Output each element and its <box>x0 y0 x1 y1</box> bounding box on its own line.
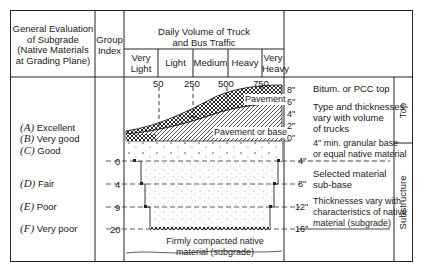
scale-16: 16" <box>295 224 308 235</box>
compacted-line: material (subgrade) <box>160 247 270 258</box>
traffic-col-light: Light <box>158 58 193 69</box>
evaluation-header: General Evaluation of Subgrade (Native M… <box>11 24 95 66</box>
label-pavement-or-base: Pavement or base <box>213 127 288 138</box>
grade-b: (B) Very good <box>20 133 79 144</box>
grade-letter: (B) <box>20 132 34 144</box>
desc-line: vary with volume <box>313 112 404 123</box>
desc-thickness-native: Thicknesses vary with characteristics of… <box>313 196 407 229</box>
marker-500: 500 <box>218 78 234 89</box>
col-label: Heavy <box>262 64 284 75</box>
grade-d: (D) Fair <box>20 178 54 189</box>
traffic-header: Daily Volume of Truck and Bus Traffic <box>124 27 284 48</box>
grade-label: Fair <box>38 178 54 189</box>
header-line: (Native Materials <box>11 45 95 56</box>
scale-6: 6" <box>287 97 295 108</box>
desc-type-thickness: Type and thicknesses vary with volume of… <box>313 101 404 134</box>
group-index-0: 0 <box>115 156 120 167</box>
grade-e: (E) Poor <box>20 201 57 212</box>
side-label-top: Top <box>394 77 412 143</box>
header-line: at Grading Plane) <box>11 56 95 67</box>
desc-line: sub-base <box>313 179 386 190</box>
desc-bitum: Bitum. or PCC top <box>313 83 390 94</box>
col-label: Very <box>262 53 284 64</box>
traffic-col-medium: Medium <box>193 58 228 69</box>
grade-label: Excellent <box>37 122 76 133</box>
marker-50: 50 <box>153 78 164 89</box>
scale-0: 0" <box>287 133 295 144</box>
desc-line: material (subgrade) <box>313 218 407 229</box>
header-line: and Bus Traffic <box>124 38 284 49</box>
desc-line: Thicknesses vary with <box>313 196 407 207</box>
desc-line: Type and thicknesses <box>313 101 404 112</box>
grade-letter: (D) <box>20 177 35 189</box>
scale-8b: 8" <box>298 179 306 190</box>
grade-letter: (C) <box>20 144 35 156</box>
desc-line: characteristics of native <box>313 207 407 218</box>
desc-line: 4" min. granular base <box>313 138 407 149</box>
grade-label: Very good <box>37 133 80 144</box>
grade-letter: (E) <box>20 200 34 212</box>
group-index-header: Group Index <box>95 35 124 56</box>
traffic-col-heavy: Heavy <box>228 58 262 69</box>
side-label-substructure: Substructure <box>394 143 412 262</box>
scale-2: 2" <box>287 121 295 132</box>
col-label: Heavy <box>228 58 262 69</box>
grade-label: Good <box>37 145 60 156</box>
label-compacted: Firmly compacted native material (subgra… <box>160 236 270 258</box>
grade-label: Very poor <box>37 223 78 234</box>
marker-250: 250 <box>184 78 200 89</box>
desc-line: Selected material <box>313 168 386 179</box>
marker-750: 750 <box>253 78 269 89</box>
label-pavement: Pavement <box>244 94 287 105</box>
traffic-col-very-light: Very Light <box>124 53 158 74</box>
desc-selected: Selected material sub-base <box>313 168 386 190</box>
grade-label: Poor <box>37 201 57 212</box>
scale-8: 8" <box>287 85 295 96</box>
scale-4: 4" <box>287 109 295 120</box>
col-label: Very <box>124 53 158 64</box>
desc-line: or equal native material <box>313 149 407 160</box>
desc-line: of trucks <box>313 123 404 134</box>
compacted-line: Firmly compacted native <box>160 236 270 247</box>
col-label: Light <box>158 58 193 69</box>
side-label-text: Substructure <box>398 176 409 230</box>
desc-granular: 4" min. granular base or equal native ma… <box>313 138 407 160</box>
grade-f: (F) Very poor <box>20 223 77 234</box>
col-label: Light <box>124 64 158 75</box>
grade-c: (C) Good <box>20 145 61 156</box>
header-line: General Evaluation <box>11 24 95 35</box>
grade-letter: (F) <box>20 222 34 234</box>
traffic-col-very-heavy: Very Heavy <box>262 53 284 74</box>
header-line: Group <box>95 35 124 46</box>
group-index-20: 20 <box>110 224 121 235</box>
side-label-text: Top <box>397 102 408 117</box>
scale-4b: 4" <box>298 156 306 167</box>
col-label: Medium <box>193 58 228 69</box>
group-index-4: 4 <box>115 179 120 190</box>
group-index-9: 9 <box>115 202 120 213</box>
scale-12: 12" <box>295 202 308 213</box>
header-line: Index <box>95 46 124 57</box>
header-line: Daily Volume of Truck <box>124 27 284 38</box>
